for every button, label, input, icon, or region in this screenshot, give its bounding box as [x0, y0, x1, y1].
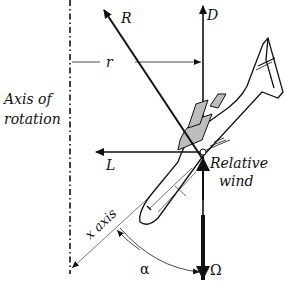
label-omega: Ω — [210, 262, 222, 278]
spin-force-diagram: Axis of rotation r R D L Relative wind x… — [0, 0, 287, 282]
center-of-gravity-marker — [200, 149, 206, 155]
label-alpha: α — [140, 261, 150, 277]
label-r: r — [106, 54, 114, 70]
label-axis-of-rotation-1: Axis of — [2, 91, 55, 107]
label-D: D — [206, 7, 218, 23]
label-L: L — [105, 157, 115, 173]
alpha-angle-arc-start — [117, 230, 140, 250]
label-relative-wind-2: wind — [219, 173, 253, 189]
resultant-vector-R — [104, 10, 202, 158]
alpha-angle-arc — [120, 228, 200, 272]
airplane-drawing — [140, 38, 283, 224]
label-R: R — [120, 10, 132, 26]
label-relative-wind-1: Relative — [209, 155, 268, 171]
label-x-axis: x axis — [82, 206, 120, 243]
label-axis-of-rotation-2: rotation — [4, 111, 61, 127]
